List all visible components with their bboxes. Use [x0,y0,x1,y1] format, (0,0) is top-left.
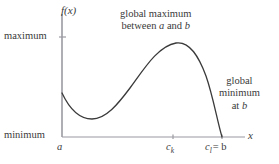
function-curve [62,43,222,137]
y-tick-label-minimum: minimum [4,129,45,141]
annotation-global-maximum: global maximum between a and b [120,8,191,33]
y-axis-label: f(x) [61,4,76,17]
annotation-global-max-line2: between a and b [120,20,191,32]
annotation-global-min-var-b: b [242,100,247,111]
annotation-global-min-line1: global [219,75,260,87]
annotation-global-max-var-b: b [185,20,190,31]
x-tick-cl-tail: = b [212,141,228,152]
annotation-global-max-line2-mid: and [164,20,184,31]
x-tick-label-cl: cl= b [205,141,228,156]
annotation-global-min-line3-pre: at [232,100,242,111]
x-axis-label: x [248,129,253,142]
y-tick-label-maximum: maximum [4,30,47,42]
annotation-global-min-line3: at b [219,100,260,112]
x-tick-label-a: a [57,141,62,153]
function-graph-figure: f(x) x maximum minimum a ck cl= b global… [0,0,279,164]
x-tick-ck-subscript: k [171,146,174,155]
annotation-global-min-line2: minimum [219,87,260,99]
annotation-global-minimum: global minimum at b [219,75,260,112]
annotation-global-max-line2-pre: between [121,20,159,31]
annotation-global-max-line1: global maximum [120,8,191,20]
x-tick-label-ck: ck [166,141,174,156]
